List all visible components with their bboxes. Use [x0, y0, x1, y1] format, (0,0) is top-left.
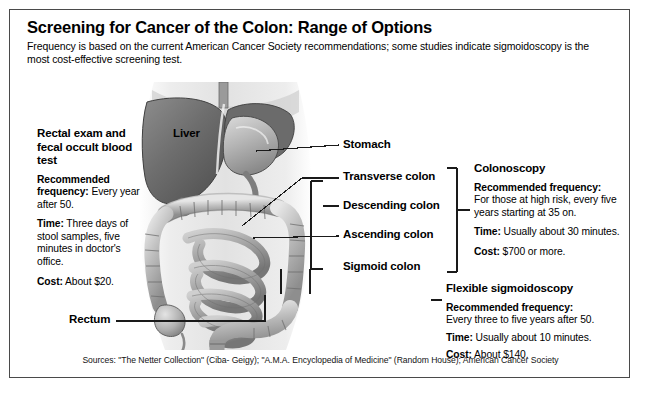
- panel-item-value: About $20.: [63, 276, 114, 287]
- panel-item-frequency: Recommended frequency: Every year after …: [37, 174, 149, 212]
- panel-heading: Rectal exam and fecal occult blood test: [37, 127, 149, 168]
- panel-colonoscopy: Colonoscopy Recommended frequency: For t…: [474, 162, 624, 258]
- abdominal-anatomy-illustration: [118, 82, 333, 350]
- bracket-colonoscopy: [447, 168, 470, 272]
- panel-heading: Colonoscopy: [474, 162, 624, 176]
- panel-item-term: Time:: [474, 226, 501, 237]
- infographic-panel: Screening for Cancer of the Colon: Range…: [9, 9, 630, 378]
- anatomy-label-stomach: Stomach: [343, 138, 391, 150]
- page-title: Screening for Cancer of the Colon: Range…: [27, 18, 613, 37]
- panel-item-cost: Cost: $700 or more.: [474, 246, 624, 259]
- panel-fecal-occult-blood-test: Rectal exam and fecal occult blood test …: [37, 127, 149, 288]
- panel-item-term: Recommended frequency:: [474, 182, 601, 193]
- anatomy-label-rectum: Rectum: [69, 313, 110, 325]
- panel-item-term: Recommended frequency:: [446, 302, 573, 313]
- panel-item-value: For those at high risk, every five years…: [474, 194, 617, 218]
- panel-item-time: Time: Usually about 10 minutes.: [446, 332, 626, 345]
- panel-item-time: Time: Usually about 30 minutes.: [474, 226, 624, 239]
- page-subtitle: Frequency is based on the current Americ…: [27, 40, 613, 66]
- header: Screening for Cancer of the Colon: Range…: [27, 18, 613, 66]
- sources-line: Sources: "The Netter Collection" (Ciba- …: [10, 355, 630, 365]
- anatomy-label-ascending-colon: Ascending colon: [343, 228, 433, 240]
- panel-item-term: Time:: [37, 218, 64, 229]
- anatomy-label-transverse-colon: Transverse colon: [343, 170, 435, 182]
- anatomy-label-sigmoid-colon: Sigmoid colon: [343, 260, 420, 272]
- panel-item-frequency: Recommended frequency: Every three to fi…: [446, 302, 626, 327]
- panel-item-frequency: Recommended frequency: For those at high…: [474, 182, 624, 220]
- panel-item-value: Usually about 30 minutes.: [501, 226, 620, 237]
- panel-item-term: Cost:: [474, 246, 500, 257]
- liver-label: Liver: [173, 127, 200, 139]
- panel-item-value: Every three to five years after 50.: [446, 314, 594, 325]
- panel-item-term: Time:: [446, 332, 473, 343]
- anatomy-label-descending-colon: Descending colon: [343, 199, 440, 211]
- panel-item-value: $700 or more.: [500, 246, 566, 257]
- panel-heading: Flexible sigmoidoscopy: [446, 282, 626, 296]
- panel-item-term: Cost:: [37, 276, 63, 287]
- panel-item-time: Time: Three days of stool samples, five …: [37, 218, 149, 268]
- panel-item-value: Usually about 10 minutes.: [473, 332, 592, 343]
- panel-item-cost: Cost: About $20.: [37, 276, 149, 289]
